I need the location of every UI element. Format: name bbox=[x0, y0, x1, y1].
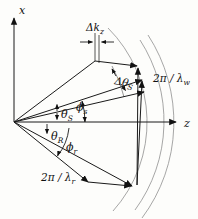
delta-kz-label: Δkz bbox=[85, 21, 104, 36]
wave-vector-diagram: x z Δkz ΔθS 2π / λw θS ϕs θR ϕr 2π / λr bbox=[0, 0, 198, 219]
k-circle-arc-middle bbox=[135, 40, 164, 210]
phi-r-label: ϕr bbox=[66, 141, 78, 156]
phi-s-label: ϕs bbox=[76, 101, 88, 116]
theta-s-label: θS bbox=[61, 108, 73, 123]
two-pi-lambda-r-label: 2π / λr bbox=[40, 171, 75, 186]
z-axis-label: z bbox=[183, 117, 190, 130]
x-axis-label: x bbox=[19, 4, 26, 17]
theta-r-label: θR bbox=[51, 130, 64, 145]
wiggler-bottom-segment bbox=[88, 182, 131, 186]
diagram-canvas: x z Δkz ΔθS 2π / λw θS ϕs θR ϕr 2π / λr bbox=[0, 0, 198, 219]
two-pi-lambda-w-label: 2π / λw bbox=[152, 72, 190, 87]
delta-theta-s-label: ΔθS bbox=[112, 74, 135, 92]
wiggler-top-segment bbox=[95, 61, 137, 66]
